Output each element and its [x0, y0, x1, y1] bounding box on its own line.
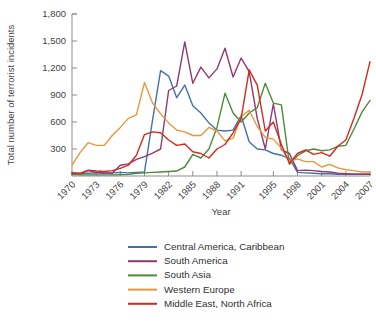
- series-line-1: [72, 71, 370, 175]
- x-tick-label: 1982: [151, 179, 174, 202]
- x-axis-title: Year: [211, 206, 230, 217]
- x-tick-label: 2007: [353, 179, 376, 202]
- y-axis-title: Total number of terrorist incidents: [5, 25, 16, 166]
- y-tick-label: 300: [50, 143, 66, 154]
- legend-label-4: Western Europe: [164, 284, 235, 295]
- x-tick-label: 1973: [79, 179, 102, 202]
- x-tick-label: 2004: [329, 179, 352, 202]
- x-tick-label: 1976: [103, 179, 126, 202]
- series-line-3: [72, 83, 370, 175]
- y-tick-label: 1,200: [42, 62, 66, 73]
- legend-label-1: Central America, Caribbean: [164, 241, 284, 252]
- legend-label-3: South Asia: [164, 269, 211, 280]
- x-tick-label: 1998: [280, 179, 303, 202]
- x-tick-label: 1985: [175, 179, 198, 202]
- series-line-4: [72, 82, 370, 172]
- legend-label-2: South America: [164, 255, 228, 266]
- series-line-5: [72, 62, 370, 174]
- x-tick-label: 1995: [256, 179, 279, 202]
- y-tick-label: 600: [50, 116, 66, 127]
- x-tick-label: 1979: [127, 179, 150, 202]
- x-tick-label: 2001: [304, 179, 327, 202]
- x-tick-label: 1988: [200, 179, 223, 202]
- x-tick-label: 1991: [224, 179, 247, 202]
- terrorist-incidents-line-chart: 1,8001,5001,2009006003001970197319761979…: [0, 0, 376, 333]
- y-tick-label: 1,500: [42, 35, 66, 46]
- x-tick-label: 1970: [55, 179, 78, 202]
- y-tick-label: 900: [50, 89, 66, 100]
- legend-label-5: Middle East, North Africa: [164, 298, 272, 309]
- y-tick-label: 1,800: [42, 8, 66, 19]
